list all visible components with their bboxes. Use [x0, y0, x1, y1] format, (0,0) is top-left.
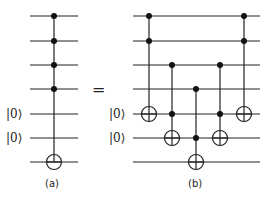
control-dot-icon [51, 62, 57, 68]
control-dot-icon [217, 62, 223, 68]
control-dot-icon [217, 111, 223, 117]
ket-label: |0⟩ [6, 131, 22, 145]
control-dot-icon [193, 86, 199, 92]
circuit-diagram: |0⟩ |0⟩ (a) = [0, 0, 269, 202]
control-dot-icon [241, 13, 247, 19]
control-dot-icon [169, 62, 175, 68]
control-dot-icon [51, 86, 57, 92]
control-dot-icon [169, 111, 175, 117]
equals-sign: = [92, 80, 105, 99]
circuit-b [133, 16, 260, 170]
caption-b: (b) [188, 178, 202, 189]
control-dot-icon [51, 38, 57, 44]
ket-label: |0⟩ [109, 107, 125, 121]
control-dot-icon [146, 38, 152, 44]
control-dot-icon [146, 13, 152, 19]
caption-a: (a) [45, 178, 59, 189]
control-dot-icon [193, 135, 199, 141]
control-dot-icon [51, 13, 57, 19]
ket-label: |0⟩ [6, 107, 22, 121]
control-dot-icon [241, 38, 247, 44]
ket-label: |0⟩ [109, 131, 125, 145]
